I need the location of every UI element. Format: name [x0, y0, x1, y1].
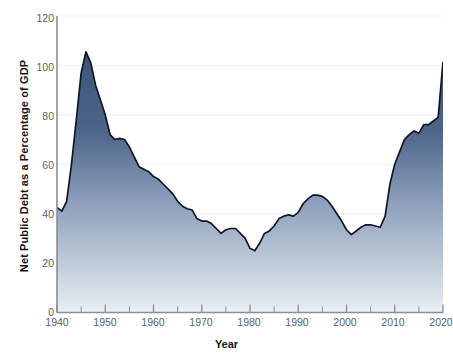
chart-container: Net Public Debt as a Percentage of GDP Y…	[0, 0, 453, 359]
area-series	[57, 52, 443, 313]
area-fill	[57, 52, 443, 313]
area-chart-plot	[0, 0, 453, 359]
